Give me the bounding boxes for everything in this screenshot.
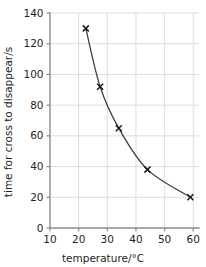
x-axis-title: temperature/°C bbox=[62, 252, 144, 264]
x-tick-label-30: 30 bbox=[101, 233, 114, 245]
x-tick-label-50: 50 bbox=[158, 233, 171, 245]
y-tick-label-20: 20 bbox=[30, 191, 43, 203]
y-tick-label-140: 140 bbox=[23, 7, 43, 19]
y-tick-label-120: 120 bbox=[23, 37, 43, 49]
y-tick-label-100: 100 bbox=[23, 68, 43, 80]
x-tick-label-10: 10 bbox=[43, 233, 56, 245]
y-tick-label-80: 80 bbox=[30, 99, 43, 111]
y-tick-label-40: 40 bbox=[30, 160, 43, 172]
y-tick-label-0: 0 bbox=[37, 222, 44, 234]
y-tick-label-60: 60 bbox=[30, 129, 43, 141]
x-tick-label-60: 60 bbox=[187, 233, 200, 245]
y-axis-title: time for cross to disappear/s bbox=[2, 47, 14, 197]
x-tick-label-40: 40 bbox=[129, 233, 142, 245]
chart-container: 020406080100120140 102030405060 temperat… bbox=[0, 0, 206, 267]
rate-of-reaction-line-chart: 020406080100120140 102030405060 temperat… bbox=[0, 0, 206, 267]
x-tick-label-20: 20 bbox=[72, 233, 85, 245]
